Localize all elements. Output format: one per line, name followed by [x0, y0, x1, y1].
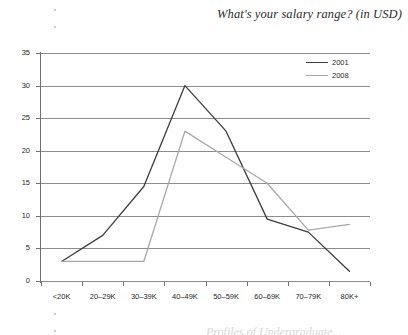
chart-legend: 20012008: [306, 56, 370, 82]
chart-page: What's your salary range? (in USD) 05101…: [0, 0, 408, 335]
legend-swatch-2001: [306, 62, 328, 63]
series-line-2001: [62, 86, 350, 272]
series-lines: [0, 0, 408, 335]
clipped-footer-text: Profiles of Undergraduate...: [206, 325, 341, 335]
legend-item-2008: 2008: [306, 69, 370, 82]
legend-item-2001: 2001: [306, 56, 370, 69]
legend-label: 2001: [332, 59, 349, 67]
series-line-2008: [62, 131, 350, 261]
legend-label: 2008: [332, 72, 349, 80]
legend-swatch-2008: [306, 75, 328, 76]
